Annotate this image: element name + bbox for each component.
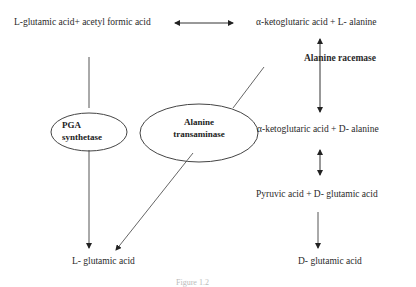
node-d-glutamic-acid: D- glutamic acid (298, 256, 362, 266)
node-l-glutamic-acid: L- glutamic acid (72, 256, 135, 266)
figure-caption: Figure 1.2 (176, 278, 209, 287)
transaminase-line1: Alanine (159, 116, 239, 128)
node-ketoglutaric-l-alanine: α-ketoglutaric acid + L- alanine (256, 17, 377, 27)
pga-line2: synthetase (62, 131, 110, 143)
arrow-alanine-transaminase (116, 67, 264, 250)
node-pyruvic-d-glutamic: Pyruvic acid + D- glutamic acid (256, 189, 378, 199)
enzyme-pga-synthetase: PGA synthetase (62, 119, 110, 143)
transaminase-line2: transaminase (159, 128, 239, 140)
node-l-glutamic-acetyl-formic: L-glutamic acid+ acetyl formic acid (14, 17, 151, 27)
enzyme-alanine-transaminase: Alanine transaminase (159, 116, 239, 140)
enzyme-alanine-racemase: Alanine racemase (304, 53, 376, 63)
pga-line1: PGA (62, 119, 110, 131)
node-ketoglutaric-d-alanine: α-ketoglutaric acid + D- alanine (257, 124, 379, 134)
